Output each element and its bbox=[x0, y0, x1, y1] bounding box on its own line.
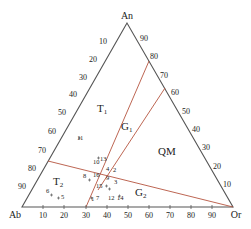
left-tick-80: 80 bbox=[28, 164, 36, 173]
boundary-t2-top bbox=[48, 161, 233, 207]
vertex-or: Or bbox=[231, 209, 242, 220]
region-qm: QM bbox=[158, 145, 176, 157]
right-tick-60: 60 bbox=[171, 88, 179, 97]
left-tick-50: 50 bbox=[58, 108, 66, 117]
right-tick-50: 50 bbox=[182, 107, 190, 116]
region-t1: T1 bbox=[97, 102, 108, 116]
point-13: 13 bbox=[100, 155, 107, 162]
point-2: 2 bbox=[113, 166, 116, 173]
left-tick-30: 30 bbox=[79, 73, 87, 82]
point-15: 15 bbox=[96, 182, 103, 189]
point-4: 4 bbox=[106, 165, 110, 172]
point-7: 7 bbox=[96, 194, 100, 201]
vertex-an: An bbox=[121, 10, 133, 21]
region-t2: T2 bbox=[53, 175, 64, 189]
bottom-tick-60: 60 bbox=[145, 211, 153, 220]
right-tick-30: 30 bbox=[202, 143, 210, 152]
point-12: 12 bbox=[108, 194, 115, 201]
point-3: 3 bbox=[114, 178, 117, 185]
point-9: 9 bbox=[106, 174, 109, 181]
vertex-ab: Ab bbox=[9, 209, 21, 220]
bottom-tick-50: 50 bbox=[124, 211, 132, 220]
region-g2: G2 bbox=[135, 186, 147, 200]
point-5: 5 bbox=[61, 193, 64, 200]
left-tick-90: 90 bbox=[18, 182, 26, 191]
bottom-tick-80: 80 bbox=[187, 211, 195, 220]
point-11: 11 bbox=[77, 134, 83, 141]
ternary-diagram: 10 20 30 40 50 60 70 80 90 10 20 30 40 5… bbox=[0, 0, 251, 229]
left-tick-70: 70 bbox=[38, 146, 46, 155]
left-axis: 10 20 30 40 50 60 70 80 90 bbox=[18, 37, 107, 191]
right-tick-80: 80 bbox=[150, 52, 158, 61]
region-g1: G1 bbox=[121, 120, 133, 134]
right-tick-10: 10 bbox=[223, 180, 231, 189]
left-tick-20: 20 bbox=[89, 55, 97, 64]
bottom-tick-40: 40 bbox=[103, 211, 111, 220]
bottom-tick-10: 10 bbox=[39, 211, 47, 220]
bottom-tick-20: 20 bbox=[60, 211, 68, 220]
point-markers bbox=[50, 137, 121, 200]
point-8: 8 bbox=[83, 172, 86, 179]
bottom-tick-30: 30 bbox=[82, 211, 90, 220]
bottom-tick-90: 90 bbox=[208, 211, 216, 220]
right-tick-90: 90 bbox=[140, 34, 148, 43]
right-tick-70: 70 bbox=[160, 71, 168, 80]
bottom-tick-70: 70 bbox=[166, 211, 174, 220]
right-tick-20: 20 bbox=[213, 162, 221, 171]
right-axis: 90 80 70 60 50 40 30 20 10 bbox=[140, 34, 231, 189]
point-14: 14 bbox=[117, 194, 124, 201]
right-tick-40: 40 bbox=[192, 125, 200, 134]
left-tick-10: 10 bbox=[99, 37, 107, 46]
left-tick-60: 60 bbox=[48, 127, 56, 136]
left-tick-40: 40 bbox=[69, 90, 77, 99]
point-6: 6 bbox=[46, 187, 50, 194]
point-16: 16 bbox=[93, 171, 100, 178]
